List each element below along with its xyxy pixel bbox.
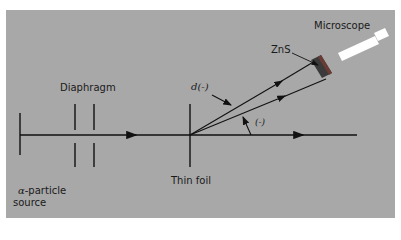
angle-pointer	[243, 117, 251, 135]
scattered-ray-lower	[190, 96, 285, 135]
source-label-line2: source	[13, 197, 46, 209]
foil-label: Thin foil	[171, 175, 211, 187]
angle-label: (-)	[255, 116, 265, 128]
diaphragm-label: Diaphragm	[60, 82, 116, 94]
source-label: α-particle	[18, 185, 66, 197]
distance-label: d(-)	[191, 81, 209, 93]
microscope-label: Microscope	[314, 20, 370, 32]
zns-label: ZnS	[271, 44, 291, 56]
microscope-icon	[338, 28, 389, 61]
distance-pointer	[212, 95, 231, 105]
